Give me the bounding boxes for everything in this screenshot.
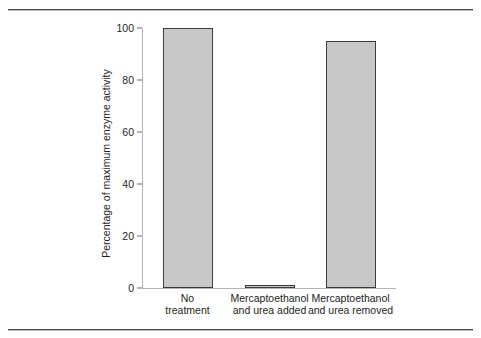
x-axis-category-label: Mercaptoethanoland urea removed [291, 292, 411, 317]
bar [326, 41, 376, 288]
y-axis-title: Percentage of maximum enzyme activity [101, 39, 112, 289]
y-axis-tick [137, 131, 142, 132]
y-axis-line [142, 28, 143, 288]
y-axis-tick [137, 287, 142, 288]
bar [245, 285, 295, 288]
y-axis-tick-label: 100 [104, 23, 134, 34]
y-axis-tick [137, 183, 142, 184]
x-axis-line [142, 288, 396, 289]
bar [163, 28, 213, 288]
bar-chart: 020406080100 Percentage of maximum enzym… [0, 0, 481, 338]
y-axis-tick [137, 27, 142, 28]
x-axis-category-label-line: Mercaptoethanol [291, 292, 411, 304]
y-axis-tick [137, 235, 142, 236]
x-axis-category-label-line: and urea removed [291, 304, 411, 316]
y-axis-tick [137, 79, 142, 80]
